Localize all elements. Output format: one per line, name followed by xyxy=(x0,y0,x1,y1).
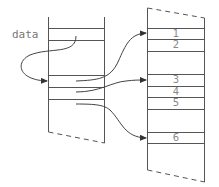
memory-diagram: data 1 2 3 4 5 6 xyxy=(0,0,219,187)
right-block: 1 2 3 4 5 6 xyxy=(148,8,205,182)
data-label: data xyxy=(12,28,39,41)
arrow-left-to-slot-6 xyxy=(76,104,146,138)
slot-1-label: 1 xyxy=(173,28,179,39)
slot-6-label: 6 xyxy=(173,132,179,143)
left-block xyxy=(49,17,105,143)
arrow-left-to-slot-3 xyxy=(76,80,146,92)
slot-3-label: 3 xyxy=(173,74,179,85)
slot-5-label: 5 xyxy=(173,97,179,108)
slot-2-label: 2 xyxy=(173,39,179,50)
slot-4-label: 4 xyxy=(173,86,179,97)
